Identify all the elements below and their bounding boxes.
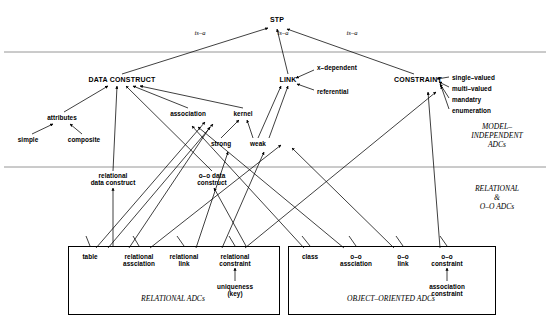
edge-label-is-a-1: is–a: [195, 29, 206, 36]
node-oo-constraint[interactable]: o–o constraint: [431, 253, 462, 268]
node-attributes[interactable]: attributes: [47, 114, 77, 121]
node-association[interactable]: association: [170, 110, 206, 117]
node-x-dependent[interactable]: x–dependent: [317, 64, 357, 71]
node-composite[interactable]: composite: [68, 136, 100, 143]
node-strong[interactable]: strong: [211, 140, 231, 147]
edge-label-is-a-2: is–a: [278, 29, 289, 36]
hierarchy-edges-plain: [86, 236, 447, 246]
node-single-valued[interactable]: single–valued: [452, 74, 495, 81]
node-multi-valued[interactable]: multi–valued: [452, 85, 492, 92]
node-oo-link[interactable]: o–o link: [397, 253, 409, 268]
node-enumeration[interactable]: enumeration: [452, 107, 491, 114]
node-relational-link[interactable]: relational link: [170, 253, 199, 268]
node-relational-assciation[interactable]: relational assciation: [123, 253, 155, 268]
node-relational-data-construct[interactable]: relational data construct: [91, 172, 136, 187]
node-oo-assciation[interactable]: o–o assciation: [340, 253, 372, 268]
object-oriented-adcs-box: [288, 246, 496, 315]
node-weak[interactable]: weak: [250, 140, 266, 147]
node-stp[interactable]: STP: [270, 16, 284, 23]
node-data-construct[interactable]: DATA CONSTRUCT: [89, 76, 156, 83]
node-mandatry[interactable]: mandatry: [452, 96, 481, 103]
zone-label-model-independent: MODEL– INDEPENDENT ADCs: [471, 122, 522, 150]
node-simple[interactable]: simple: [18, 136, 39, 143]
relational-adcs-box-label: RELATIONAL ADCs: [141, 294, 205, 303]
node-link[interactable]: LINK: [279, 76, 296, 83]
zone-label-relational-oo: RELATIONAL & O–O ADCs: [475, 184, 519, 212]
node-constraint[interactable]: CONSTRAINT: [394, 76, 442, 83]
diagram-canvas: STP is–a is–a is–a MODEL– INDEPENDENT AD…: [0, 0, 550, 326]
node-referential[interactable]: referential: [317, 88, 348, 95]
node-class[interactable]: class: [302, 253, 318, 260]
node-kernel[interactable]: kernel: [233, 110, 252, 117]
hierarchy-edges: [32, 28, 449, 281]
node-relational-constraint[interactable]: relational constraint: [219, 253, 250, 268]
node-uniqueness-key[interactable]: uniqueness (key): [217, 283, 253, 298]
object-oriented-adcs-box-label: OBJECT–ORIENTED ADCs: [347, 294, 435, 303]
node-association-constraint[interactable]: association constraint: [429, 283, 465, 298]
node-oo-data-construct[interactable]: o–o data construct: [197, 172, 227, 187]
node-table[interactable]: table: [82, 253, 97, 260]
edge-label-is-a-3: is–a: [347, 29, 358, 36]
